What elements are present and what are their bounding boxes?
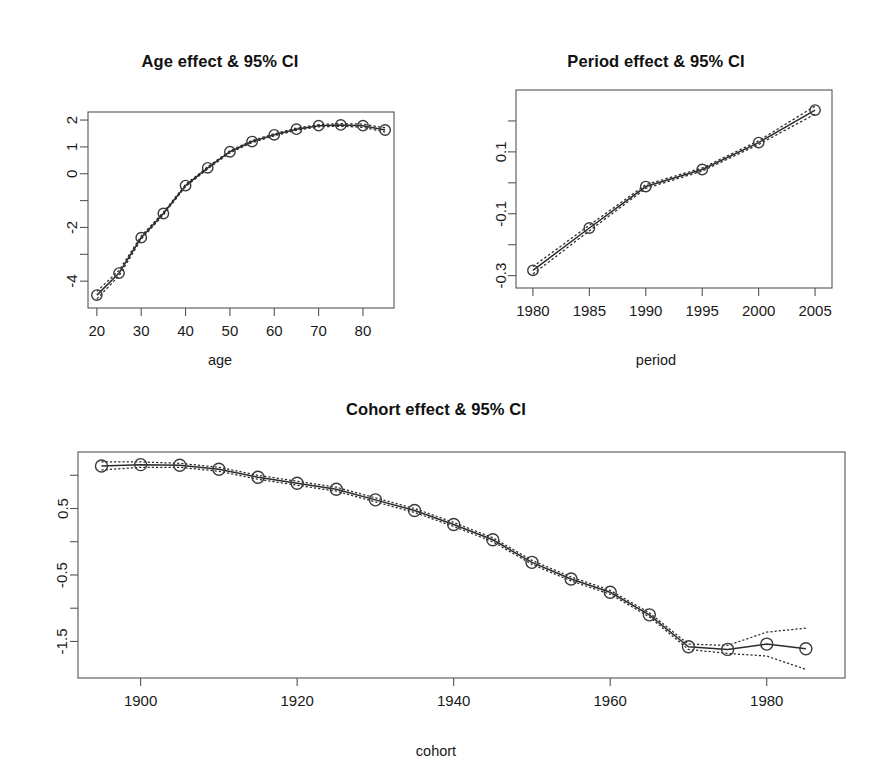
- ci-upper-95-line: [97, 124, 385, 292]
- estimate-line: [97, 125, 385, 295]
- x-tick-label: 1960: [594, 692, 627, 709]
- x-tick-label: 1900: [124, 692, 157, 709]
- y-tick-label: 0.1: [492, 141, 509, 162]
- period-plot-area: 198019851990199520002005-0.3-0.10.1: [440, 20, 872, 400]
- cohort-plot-area: 19001920194019601980-1.5-0.50.5: [0, 390, 872, 779]
- x-tick-label: 30: [133, 322, 150, 339]
- x-tick-label: 1990: [629, 302, 662, 319]
- x-tick-label: 1980: [750, 692, 783, 709]
- y-tick-label: -0.3: [492, 263, 509, 289]
- plot-frame: [516, 90, 832, 288]
- x-tick-label: 2005: [798, 302, 831, 319]
- estimate-line: [101, 465, 805, 650]
- period-effect-panel: Period effect & 95% CI 19801985199019952…: [440, 20, 872, 400]
- y-tick-label: -0.5: [54, 562, 71, 588]
- x-tick-label: 1985: [573, 302, 606, 319]
- x-tick-label: 1920: [280, 692, 313, 709]
- y-tick-label: -2: [64, 221, 81, 234]
- ci-lower-95-line: [97, 126, 385, 299]
- ci-upper-95-line: [101, 462, 805, 645]
- y-tick-label: 2: [64, 116, 81, 124]
- cohort-effect-panel: Cohort effect & 95% CI 19001920194019601…: [0, 390, 872, 779]
- y-tick-label: -4: [64, 274, 81, 287]
- apc-effects-figure: Age effect & 95% CI 20304050607080-4-201…: [0, 0, 872, 779]
- x-tick-label: 50: [222, 322, 239, 339]
- cohort-axis-label: cohort: [0, 743, 872, 759]
- y-tick-label: -1.5: [54, 629, 71, 655]
- age-axis-label: age: [0, 352, 440, 368]
- ci-lower-95-line: [533, 114, 815, 274]
- x-tick-label: 20: [89, 322, 106, 339]
- estimate-line: [533, 110, 815, 270]
- x-tick-label: 1995: [686, 302, 719, 319]
- x-tick-label: 1940: [437, 692, 470, 709]
- y-tick-label: -0.1: [492, 201, 509, 227]
- x-tick-label: 60: [266, 322, 283, 339]
- y-tick-label: 0: [64, 170, 81, 178]
- age-effect-panel: Age effect & 95% CI 20304050607080-4-201…: [0, 20, 440, 400]
- ci-lower-95-line: [101, 467, 805, 669]
- plot-frame: [88, 112, 394, 308]
- x-tick-label: 40: [177, 322, 194, 339]
- y-tick-label: 1: [64, 143, 81, 151]
- age-plot-area: 20304050607080-4-2012: [0, 20, 440, 400]
- x-tick-label: 2000: [742, 302, 775, 319]
- ci-upper-95-line: [533, 106, 815, 267]
- x-tick-label: 70: [310, 322, 327, 339]
- y-tick-label: 0.5: [54, 498, 71, 519]
- period-axis-label: period: [440, 352, 872, 368]
- x-tick-label: 1980: [516, 302, 549, 319]
- x-tick-label: 80: [355, 322, 372, 339]
